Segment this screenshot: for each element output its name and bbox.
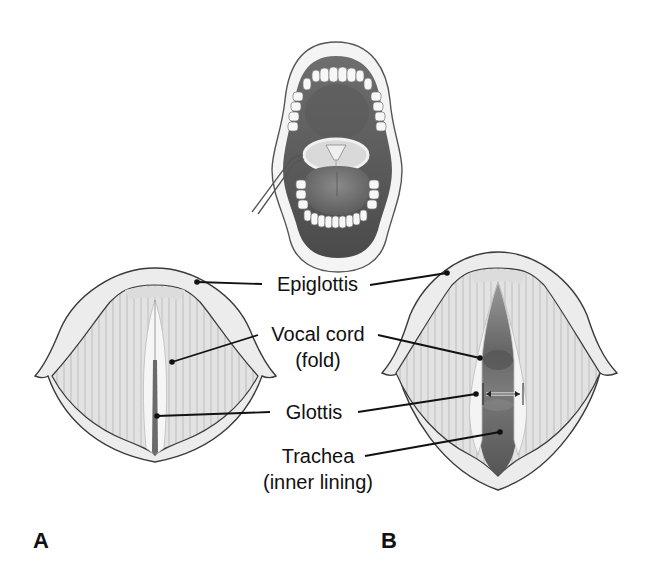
label-glottis: Glottis (270, 401, 358, 423)
label-vocal-cord-fold: (fold) (258, 349, 378, 371)
label-vocal-cord: Vocal cord (258, 323, 378, 345)
panel-letter-a: A (33, 528, 49, 554)
label-epiglottis: Epiglottis (265, 273, 370, 295)
larynx-closed-view (35, 268, 276, 462)
label-trachea-inner-lining: (inner lining) (248, 471, 388, 493)
larynx-diagram: Epiglottis Vocal cord (fold) Glottis Tra… (0, 0, 672, 572)
label-trachea: Trachea (258, 445, 378, 467)
mouth-inset (252, 42, 402, 272)
panel-letter-b: B (381, 528, 397, 554)
larynx-open-view (382, 252, 617, 490)
